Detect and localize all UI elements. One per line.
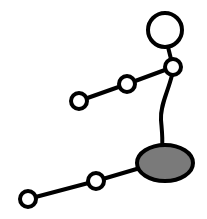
hand-joint	[71, 93, 87, 109]
hip-joint	[137, 145, 193, 181]
shin-segment	[28, 181, 96, 199]
head-node	[148, 13, 182, 47]
neck-segment	[168, 47, 171, 59]
shoulder-joint	[165, 59, 181, 75]
foot-joint	[20, 191, 36, 207]
stick-figure-diagram	[0, 0, 207, 219]
spine-segment	[161, 75, 172, 146]
knee-joint	[88, 173, 104, 189]
elbow-joint	[119, 76, 135, 92]
